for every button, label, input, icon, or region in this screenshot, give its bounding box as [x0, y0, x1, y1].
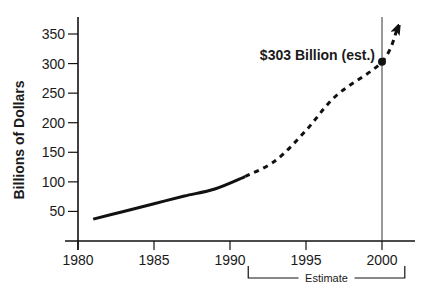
x-tick-label: 1995: [290, 252, 321, 268]
series-line-actual: [93, 177, 245, 220]
y-axis-title: Billions of Dollars: [11, 80, 27, 199]
annotations: $303 Billion (est.)Estimate: [248, 47, 405, 284]
y-tick-label: 250: [42, 85, 66, 101]
x-tick-label: 1980: [62, 252, 93, 268]
estimate-bracket-label: Estimate: [305, 272, 348, 284]
chart: 5010015020025030035019801985199019952000…: [0, 0, 426, 299]
y-tick-label: 350: [42, 26, 66, 42]
y-tick-label: 200: [42, 115, 66, 131]
y-tick-label: 50: [49, 203, 65, 219]
x-tick-label: 1985: [138, 252, 169, 268]
y-tick-label: 300: [42, 56, 66, 72]
y-tick-label: 100: [42, 174, 66, 190]
estimate-point: [378, 58, 386, 66]
y-tick-label: 150: [42, 144, 66, 160]
x-tick-label: 2000: [366, 252, 397, 268]
estimate-annotation: $303 Billion (est.): [260, 47, 375, 63]
x-tick-label: 1990: [214, 252, 245, 268]
